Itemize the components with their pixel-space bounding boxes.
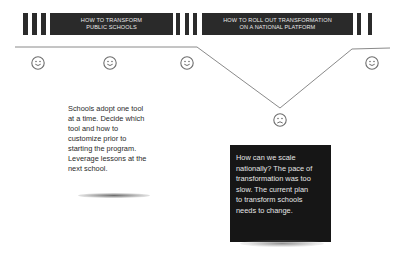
journey-line bbox=[0, 0, 401, 254]
phase2-note-card: How can we scale nationally? The pace of… bbox=[230, 145, 331, 242]
smiley-happy-icon bbox=[365, 56, 379, 70]
smiley-sad-icon bbox=[273, 113, 287, 127]
phase2-note-line: to transform schools bbox=[236, 195, 326, 206]
smiley-happy-icon bbox=[103, 56, 117, 70]
phase1-note-line: tool and how to bbox=[64, 124, 156, 134]
phase2-note-line: transformation was too bbox=[236, 174, 326, 185]
card-shadow bbox=[240, 240, 324, 247]
phase1-note-line: at a time. Decide which bbox=[64, 114, 156, 124]
card-shadow bbox=[78, 193, 150, 198]
phase2-note-line: slow. The current plan bbox=[236, 185, 326, 196]
phase1-note-line: starting the program. bbox=[64, 144, 156, 154]
smiley-happy-icon bbox=[31, 56, 45, 70]
phase1-note-line: Leverage lessons at the bbox=[64, 154, 156, 164]
phase1-note-line: next school. bbox=[64, 164, 156, 174]
phase2-note-line: nationally? The pace of bbox=[236, 164, 326, 175]
phase1-note-card: Schools adopt one tool at a time. Decide… bbox=[64, 104, 156, 174]
phase1-note-line: customize prior to bbox=[64, 134, 156, 144]
phase1-note-line: Schools adopt one tool bbox=[64, 104, 156, 114]
smiley-happy-icon bbox=[180, 56, 194, 70]
phase2-note-line: needs to change. bbox=[236, 206, 326, 217]
phase2-note-line: How can we scale bbox=[236, 153, 326, 164]
